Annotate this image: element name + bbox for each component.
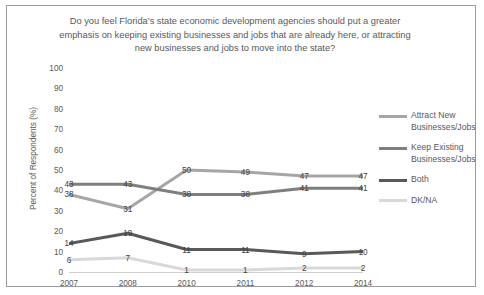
- series-line: [69, 258, 363, 270]
- data-point-label: 47: [358, 172, 367, 181]
- data-point-label: 14: [64, 239, 73, 248]
- data-point-label: 19: [123, 229, 132, 238]
- legend-label: Keep Existing Businesses/Jobs: [411, 142, 476, 164]
- plot-area: 1009080706050403020100 20072008201020112…: [69, 68, 363, 272]
- data-point-label: 10: [358, 247, 367, 256]
- y-tick-label: 70: [54, 125, 63, 134]
- y-tick-label: 50: [54, 166, 63, 175]
- data-point-label: 11: [182, 245, 191, 254]
- y-tick-label: 100: [49, 64, 63, 73]
- data-point-label: 1: [184, 265, 189, 274]
- y-tick-label: 80: [54, 104, 63, 113]
- data-point-label: 43: [64, 180, 73, 189]
- x-axis-line: [69, 272, 363, 273]
- legend-swatch-icon: [379, 115, 407, 118]
- legend-swatch-icon: [379, 179, 407, 182]
- chart-legend: Attract New Businesses/JobsKeep Existing…: [379, 110, 483, 215]
- data-point-label: 50: [182, 166, 191, 175]
- data-point-label: 41: [300, 184, 309, 193]
- y-tick-label: 60: [54, 145, 63, 154]
- data-point-label: 38: [64, 190, 73, 199]
- x-tick-label: 2007: [60, 279, 78, 288]
- data-point-label: 49: [241, 168, 250, 177]
- data-point-label: 11: [241, 245, 250, 254]
- x-tick-label: 2010: [177, 279, 195, 288]
- series-line: [69, 184, 363, 194]
- y-tick-label: 90: [54, 84, 63, 93]
- y-tick-label: 20: [54, 227, 63, 236]
- data-point-label: 38: [182, 190, 191, 199]
- data-point-label: 1: [243, 265, 248, 274]
- x-tick-label: 2012: [295, 279, 313, 288]
- data-point-label: 2: [361, 263, 366, 272]
- y-tick-label: 40: [54, 186, 63, 195]
- x-tick-label: 2014: [354, 279, 372, 288]
- y-tick-label: 30: [54, 206, 63, 215]
- legend-label: DK/NA: [411, 195, 437, 205]
- x-tick-label: 2011: [237, 279, 255, 288]
- data-point-label: 7: [126, 253, 131, 262]
- chart-frame: Do you feel Florida’s state economic dev…: [6, 5, 476, 287]
- legend-item[interactable]: Keep Existing Businesses/Jobs: [379, 142, 483, 165]
- legend-item[interactable]: DK/NA: [379, 195, 483, 207]
- x-tick-label: 2008: [119, 279, 137, 288]
- chart-title: Do you feel Florida’s state economic dev…: [55, 15, 415, 56]
- series-line: [69, 233, 363, 253]
- y-axis-title: Percent of Respondents (%): [29, 94, 38, 224]
- series-lines: [69, 68, 363, 272]
- y-tick-label: 10: [54, 247, 63, 256]
- data-point-label: 31: [123, 204, 132, 213]
- data-point-label: 9: [302, 249, 307, 258]
- data-point-label: 47: [300, 172, 309, 181]
- y-tick-label: 0: [58, 268, 63, 277]
- chart-screenshot: Do you feel Florida’s state economic dev…: [0, 0, 484, 295]
- legend-swatch-icon: [379, 199, 407, 202]
- data-point-label: 2: [302, 263, 307, 272]
- legend-label: Attract New Businesses/Jobs: [411, 110, 476, 132]
- legend-label: Both: [411, 174, 429, 184]
- data-point-label: 38: [241, 190, 250, 199]
- legend-swatch-icon: [379, 147, 407, 150]
- data-point-label: 43: [123, 180, 132, 189]
- data-point-label: 41: [358, 184, 367, 193]
- legend-item[interactable]: Attract New Businesses/Jobs: [379, 110, 483, 133]
- legend-item[interactable]: Both: [379, 174, 483, 186]
- data-point-label: 6: [67, 255, 72, 264]
